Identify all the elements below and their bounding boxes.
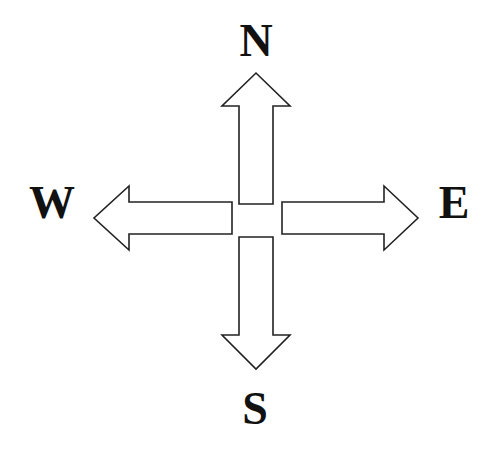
east-arrow-icon: [282, 186, 418, 250]
west-label: W: [22, 180, 82, 226]
west-arrow-icon: [94, 186, 232, 250]
north-arrow-icon: [222, 73, 290, 204]
east-label: E: [424, 180, 484, 226]
north-label: N: [226, 18, 286, 64]
south-label: S: [225, 386, 285, 432]
south-arrow-icon: [222, 237, 290, 369]
compass-diagram: N E S W: [0, 0, 489, 449]
